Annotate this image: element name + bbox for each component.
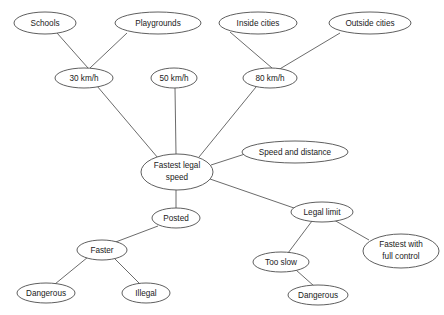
edge-legallimit-to-tooslow (288, 221, 312, 253)
edge-faster-to-dangerous1 (55, 257, 88, 284)
edge-inside-to-kmh80 (230, 32, 272, 68)
node-kmh30[interactable]: 30 km/h (55, 68, 113, 88)
node-label-line2-fastestfull: full control (382, 252, 419, 261)
edge-schools-to-kmh30 (57, 33, 88, 68)
concept-map-canvas: SchoolsPlaygroundsInside citiesOutside c… (0, 0, 444, 315)
node-tooslow[interactable]: Too slow (253, 252, 309, 272)
edge-outside-to-kmh80 (278, 33, 340, 70)
node-dangerous1[interactable]: Dangerous (17, 283, 75, 303)
node-label-legallimit: Legal limit (304, 208, 342, 217)
edge-kmh80-to-fastestlegal (199, 87, 256, 157)
node-label-line2-fastestlegal: speed (166, 173, 189, 182)
edge-tooslow-to-dangerous2 (296, 270, 314, 286)
node-label-dangerous1: Dangerous (26, 289, 66, 298)
edge-fastestlegal-to-speeddistance (211, 154, 245, 165)
node-kmh50[interactable]: 50 km/h (151, 68, 197, 88)
node-label-dangerous2: Dangerous (298, 291, 338, 300)
node-dangerous2[interactable]: Dangerous (288, 285, 348, 305)
edge-kmh50-to-fastestlegal (175, 88, 176, 154)
node-label-line1-fastestlegal: Fastest legal (154, 161, 201, 170)
node-legallimit[interactable]: Legal limit (291, 202, 353, 222)
node-inside[interactable]: Inside cities (219, 12, 297, 34)
edge-playgrounds-to-kmh30 (90, 33, 127, 68)
node-label-outside: Outside cities (345, 19, 394, 28)
node-label-illegal: Illegal (135, 289, 157, 298)
node-outside[interactable]: Outside cities (329, 12, 411, 34)
node-label-kmh80: 80 km/h (255, 74, 285, 83)
node-fastestlegal[interactable]: Fastest legalspeed (141, 154, 213, 190)
node-label-schools: Schools (30, 19, 59, 28)
node-label-line1-fastestfull: Fastest with (379, 240, 423, 249)
edge-legallimit-to-fastestfull (334, 220, 369, 240)
node-shape-fastestlegal (141, 154, 213, 190)
node-label-speeddistance: Speed and distance (259, 148, 332, 157)
node-label-kmh30: 30 km/h (69, 74, 99, 83)
edge-fastestlegal-to-legallimit (210, 179, 294, 208)
node-label-faster: Faster (90, 246, 113, 255)
node-label-inside: Inside cities (237, 19, 280, 28)
node-label-kmh50: 50 km/h (159, 74, 189, 83)
node-fastestfull[interactable]: Fastest withfull control (363, 234, 439, 268)
node-faster[interactable]: Faster (77, 240, 127, 260)
concept-map-svg: SchoolsPlaygroundsInside citiesOutside c… (0, 0, 444, 315)
node-label-posted: Posted (163, 214, 189, 223)
node-posted[interactable]: Posted (152, 208, 200, 228)
edge-posted-to-faster (113, 226, 158, 243)
node-schools[interactable]: Schools (14, 12, 76, 34)
node-speeddistance[interactable]: Speed and distance (242, 141, 348, 163)
node-playgrounds[interactable]: Playgrounds (115, 12, 201, 34)
edge-faster-to-illegal (114, 258, 140, 284)
edge-kmh30-to-fastestlegal (97, 86, 158, 158)
node-label-playgrounds: Playgrounds (135, 19, 181, 28)
node-kmh80[interactable]: 80 km/h (243, 68, 297, 88)
node-shape-fastestfull (363, 234, 439, 268)
node-label-tooslow: Too slow (265, 258, 297, 267)
node-illegal[interactable]: Illegal (122, 283, 170, 303)
